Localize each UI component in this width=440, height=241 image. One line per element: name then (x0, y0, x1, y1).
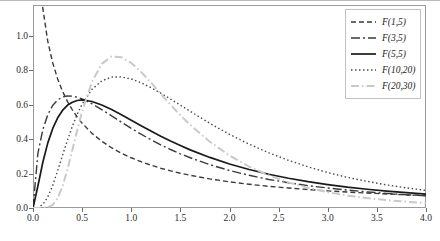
y-tick-mark (29, 139, 33, 140)
x-tick-mark (131, 208, 132, 212)
y-tick-mark (29, 105, 33, 106)
x-tick-mark (230, 208, 231, 212)
legend-item: F(1,5) (350, 14, 416, 30)
legend-label: F(1,5) (382, 17, 406, 27)
y-tick-mark (29, 208, 33, 209)
legend-line-sample (350, 16, 377, 28)
legend-label: F(3,5) (382, 33, 406, 43)
legend-line-sample (350, 80, 377, 92)
legend-item: F(20,30) (350, 78, 416, 94)
x-tick-label: 1.5 (174, 213, 186, 223)
x-tick-mark (377, 208, 378, 212)
x-tick-label: 1.0 (125, 213, 137, 223)
y-tick-label: 0.2 (2, 169, 28, 179)
x-tick-mark (180, 208, 181, 212)
curve-f35 (33, 96, 426, 208)
x-tick-mark (82, 208, 83, 212)
y-tick-label: 1.0 (2, 31, 28, 41)
x-tick-label: 3.0 (322, 213, 334, 223)
legend-label: F(10,20) (382, 65, 416, 75)
x-tick-mark (328, 208, 329, 212)
y-tick-mark (29, 70, 33, 71)
x-tick-label: 2.5 (273, 213, 285, 223)
legend-line-sample (350, 64, 377, 76)
y-tick-label: 0.0 (2, 203, 28, 213)
x-tick-mark (426, 208, 427, 212)
legend: F(1,5)F(3,5)F(5,5)F(10,20)F(20,30) (345, 9, 421, 99)
legend-label: F(20,30) (382, 81, 416, 91)
y-tick-mark (29, 36, 33, 37)
legend-line-sample (350, 48, 377, 60)
legend-item: F(10,20) (350, 62, 416, 78)
x-tick-label: 3.5 (371, 213, 383, 223)
y-tick-label: 0.6 (2, 100, 28, 110)
figure: 0.00.51.01.52.02.53.03.54.0 0.00.20.40.6… (0, 0, 440, 241)
legend-item: F(5,5) (350, 46, 416, 62)
x-tick-mark (33, 208, 34, 212)
legend-label: F(5,5) (382, 49, 406, 59)
y-tick-label: 0.8 (2, 65, 28, 75)
y-tick-label: 0.4 (2, 134, 28, 144)
legend-item: F(3,5) (350, 30, 416, 46)
x-tick-label: 2.0 (224, 213, 236, 223)
x-tick-mark (279, 208, 280, 212)
x-tick-label: 4.0 (420, 213, 432, 223)
y-tick-mark (29, 174, 33, 175)
x-tick-label: 0.5 (76, 213, 88, 223)
x-tick-label: 0.0 (27, 213, 39, 223)
legend-line-sample (350, 32, 377, 44)
